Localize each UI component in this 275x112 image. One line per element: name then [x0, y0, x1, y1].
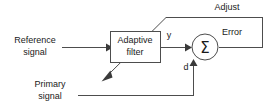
- reference-signal-label: Reference signal: [14, 35, 56, 57]
- reference-signal-label-line1: Reference: [14, 35, 56, 45]
- filter-output-wire: [160, 44, 192, 52]
- adaptive-filter-label-line1: Adaptive: [117, 35, 152, 45]
- filter-output-label-y: y: [167, 30, 172, 40]
- adaptive-filter-block[interactable]: Adaptive filter: [111, 32, 161, 63]
- reference-signal-wire: [62, 44, 113, 52]
- adaptive-filter-label-line2: filter: [126, 47, 143, 57]
- block-diagram-svg: Adaptive filter Σ Reference signal Prima…: [0, 0, 275, 112]
- sigma-symbol: Σ: [200, 39, 209, 57]
- primary-signal-label-line2: signal: [38, 91, 62, 101]
- summing-junction-block[interactable]: Σ: [192, 34, 218, 60]
- block-diagram-canvas: Adaptive filter Σ Reference signal Prima…: [0, 0, 275, 112]
- primary-signal-label-line1: Primary: [35, 79, 66, 89]
- error-signal-label: Error: [222, 27, 242, 37]
- adjust-feedback-label: Adjust: [214, 2, 240, 12]
- desired-signal-label-d: d: [183, 62, 188, 72]
- primary-signal-wire: [78, 59, 198, 96]
- reference-signal-label-line2: signal: [23, 47, 47, 57]
- primary-signal-label: Primary signal: [35, 79, 66, 101]
